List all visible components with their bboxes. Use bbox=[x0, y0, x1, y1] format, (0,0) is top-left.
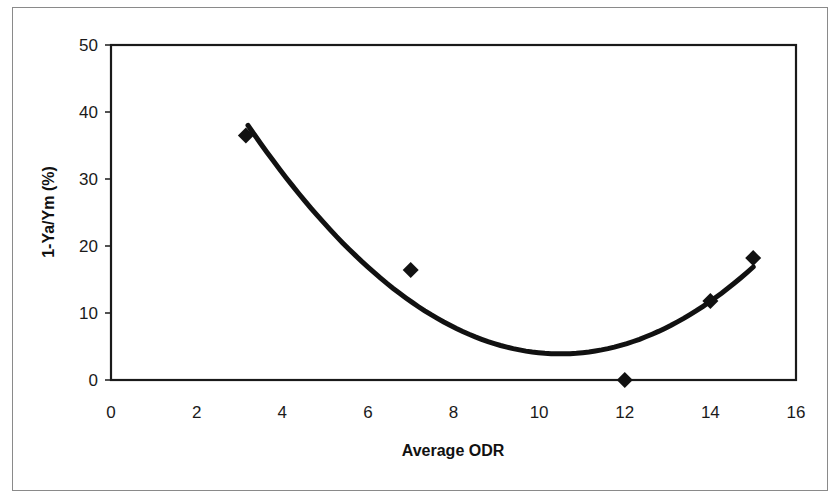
x-tick-label: 8 bbox=[449, 403, 458, 422]
chart-canvas: 01020304050 0246810121416 Average ODR 1-… bbox=[0, 0, 838, 503]
x-axis-ticks: 0246810121416 bbox=[106, 403, 805, 422]
x-tick-label: 10 bbox=[530, 403, 549, 422]
y-tick-label: 0 bbox=[89, 371, 98, 390]
x-tick-label: 4 bbox=[278, 403, 287, 422]
x-tick-label: 14 bbox=[701, 403, 720, 422]
y-tick-label: 30 bbox=[79, 170, 98, 189]
x-tick-label: 16 bbox=[787, 403, 806, 422]
x-tick-label: 6 bbox=[363, 403, 372, 422]
y-tick-label: 50 bbox=[79, 36, 98, 55]
y-tick-label: 40 bbox=[79, 103, 98, 122]
x-tick-label: 0 bbox=[106, 403, 115, 422]
y-tick-label: 10 bbox=[79, 304, 98, 323]
x-axis-title: Average ODR bbox=[402, 442, 505, 459]
x-tick-label: 2 bbox=[192, 403, 201, 422]
x-tick-label: 12 bbox=[615, 403, 634, 422]
y-tick-label: 20 bbox=[79, 237, 98, 256]
y-axis-title: 1-Ya/Ym (%) bbox=[40, 166, 57, 258]
y-axis-ticks: 01020304050 bbox=[79, 36, 111, 390]
